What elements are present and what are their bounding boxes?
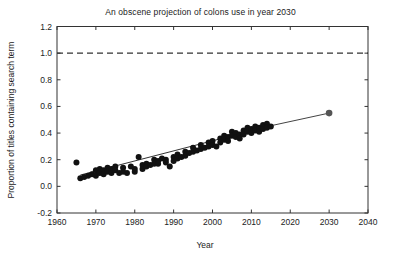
data-point xyxy=(124,170,130,176)
data-point xyxy=(167,163,173,169)
data-point xyxy=(268,123,274,129)
projection-point xyxy=(326,110,333,117)
x-tick-label: 2030 xyxy=(320,217,339,227)
data-point xyxy=(132,169,138,175)
y-axis-label: Proportion of titles containing search t… xyxy=(6,42,16,199)
y-tick-label: 0.0 xyxy=(40,181,52,191)
x-tick-label: 2020 xyxy=(281,217,300,227)
x-tick-label: 2010 xyxy=(242,217,261,227)
x-tick-label: 1970 xyxy=(86,217,105,227)
y-tick-label: 0.2 xyxy=(40,155,52,165)
y-tick-label: 0.8 xyxy=(40,75,52,85)
y-tick-label: -0.2 xyxy=(37,208,52,218)
x-axis-label: Year xyxy=(196,240,213,250)
y-tick-label: 0.6 xyxy=(40,101,52,111)
projection-data-point xyxy=(326,110,333,117)
x-tick-label: 1990 xyxy=(164,217,183,227)
x-tick-label: 2040 xyxy=(359,217,378,227)
projection-line xyxy=(271,113,329,126)
chart-figure: An obscene projection of colons use in y… xyxy=(0,0,401,262)
data-point xyxy=(155,161,161,167)
x-tick-label: 2000 xyxy=(203,217,222,227)
x-tick-label: 1980 xyxy=(125,217,144,227)
data-point xyxy=(136,154,142,160)
x-axis-ticks: 196019701980199020002010202020302040 xyxy=(48,27,378,227)
scatter-plot: 196019701980199020002010202020302040 -0.… xyxy=(0,0,401,262)
y-tick-label: 1.2 xyxy=(40,22,52,32)
x-tick-label: 1960 xyxy=(48,217,67,227)
axes-frame xyxy=(57,27,368,214)
data-point xyxy=(225,138,231,144)
y-tick-label: 0.4 xyxy=(40,128,52,138)
data-point xyxy=(73,159,79,165)
y-tick-label: 1.0 xyxy=(40,48,52,58)
y-axis-ticks: -0.20.00.20.40.60.81.01.2 xyxy=(37,22,368,219)
